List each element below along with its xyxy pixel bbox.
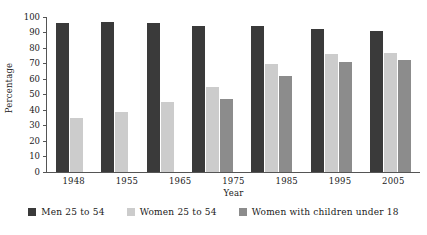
bar-group [101, 17, 128, 172]
bar-groups [47, 17, 420, 172]
y-axis-tick-label: 90 [29, 28, 43, 37]
bar-group [370, 17, 411, 172]
bar-group [251, 17, 292, 172]
legend-label: Women with children under 18 [252, 207, 399, 217]
bar [206, 87, 219, 172]
x-axis-line [46, 172, 420, 173]
plot-area: 0102030405060708090100 [47, 17, 420, 172]
bar-chart: Percentage 0102030405060708090100 194819… [0, 0, 427, 235]
legend-swatch-icon [239, 208, 247, 216]
x-axis-tick-labels: 1948195519651975198519952005 [47, 176, 420, 186]
bar [70, 118, 83, 172]
y-axis-tick-label: 70 [29, 59, 43, 68]
y-axis-tick-label: 50 [29, 90, 43, 99]
bar [384, 53, 397, 172]
y-axis-tick-label: 100 [24, 13, 43, 22]
bar [265, 64, 278, 173]
y-axis-tick-label: 0 [35, 168, 43, 177]
legend-item: Women with children under 18 [239, 207, 399, 217]
y-axis-tick-label: 20 [29, 137, 43, 146]
y-axis-tick-label: 80 [29, 44, 43, 53]
bar [220, 99, 233, 172]
bar [311, 29, 324, 172]
bar-group [147, 17, 174, 172]
bar [192, 26, 205, 172]
bar [325, 54, 338, 172]
y-axis-tick-label: 30 [29, 121, 43, 130]
bar [339, 62, 352, 172]
bar-group [192, 17, 233, 172]
bar [101, 22, 114, 172]
bar [370, 31, 383, 172]
x-axis-tick-label: 1948 [62, 176, 84, 186]
bar-group [56, 17, 83, 172]
bar [161, 102, 174, 172]
bar-group [311, 17, 352, 172]
x-axis-tick-label: 1995 [329, 176, 351, 186]
legend-label: Women 25 to 54 [140, 207, 217, 217]
legend-item: Men 25 to 54 [28, 207, 104, 217]
x-axis-tick-label: 1965 [169, 176, 191, 186]
x-axis-tick-label: 2005 [382, 176, 404, 186]
legend-swatch-icon [28, 208, 36, 216]
y-axis-title: Percentage [2, 0, 16, 175]
bar [56, 23, 69, 172]
legend-swatch-icon [127, 208, 135, 216]
x-axis-tick-label: 1955 [116, 176, 138, 186]
y-axis-tick-label: 10 [29, 152, 43, 161]
legend-label: Men 25 to 54 [41, 207, 104, 217]
bar [251, 26, 264, 172]
chart-legend: Men 25 to 54Women 25 to 54Women with chi… [0, 207, 427, 217]
legend-item: Women 25 to 54 [127, 207, 217, 217]
x-axis-title: Year [47, 188, 420, 198]
y-axis-tick-label: 60 [29, 75, 43, 84]
bar [147, 23, 160, 172]
bar [115, 112, 128, 172]
y-axis-tick-label: 40 [29, 106, 43, 115]
bar [398, 60, 411, 172]
x-axis-tick-label: 1975 [222, 176, 244, 186]
bar [279, 76, 292, 172]
y-axis-title-label: Percentage [4, 62, 14, 113]
x-axis-tick-label: 1985 [276, 176, 298, 186]
